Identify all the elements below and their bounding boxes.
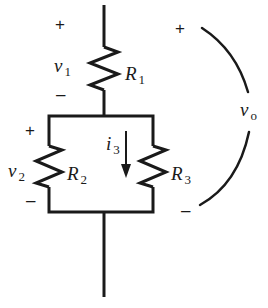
r3-label: R3 [171,164,191,183]
v2-plus-sign: + [25,122,35,139]
r1-label: R1 [125,64,145,83]
v0-arc-upper [202,28,248,92]
v0-minus-sign: – [181,202,190,219]
v0-label: vo [240,100,257,119]
v1-symbol: v [54,55,62,76]
resistor-r3-icon [140,146,166,187]
i3-symbol: i [106,133,111,154]
resistor-r1-icon [90,47,118,90]
v1-plus-sign: + [55,16,65,33]
r1-subscript: 1 [139,72,146,87]
i3-subscript: 3 [113,142,120,157]
parallel-top-rail [49,116,153,146]
v0-symbol: v [240,99,248,120]
r2-label: R2 [67,164,87,183]
v0-subscript: o [250,108,257,123]
v1-label: v1 [54,56,71,75]
resistor-r2-icon [36,146,62,187]
v2-subscript: 2 [18,169,25,184]
v0-plus-sign: + [175,20,185,37]
current-i3-arrow-head-icon [121,164,131,178]
r2-symbol: R [67,163,79,184]
r1-symbol: R [125,63,137,84]
v0-arc-lower [200,132,249,205]
v1-minus-sign: – [56,86,65,103]
r3-subscript: 3 [185,172,192,187]
v2-label: v2 [8,161,25,180]
v2-minus-sign: – [26,192,35,209]
r3-symbol: R [171,163,183,184]
v2-symbol: v [8,160,16,181]
i3-label: i3 [106,134,120,153]
r2-subscript: 2 [81,172,88,187]
circuit-diagram [0,0,268,308]
v1-subscript: 1 [64,64,71,79]
parallel-bottom-rail [49,187,153,212]
